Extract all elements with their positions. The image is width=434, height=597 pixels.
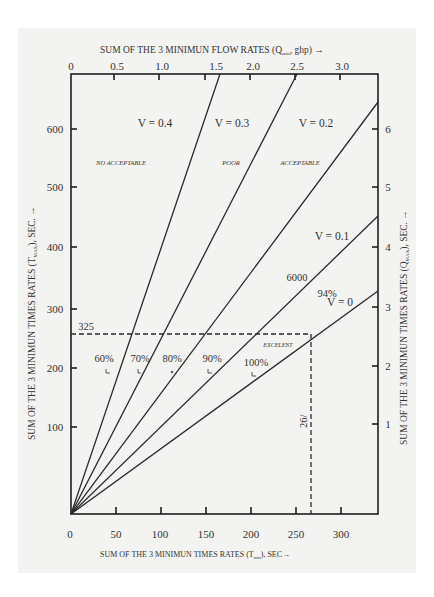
left-tick-label: 300	[47, 303, 64, 315]
label-v-0-3: V = 0.3	[215, 117, 250, 129]
region-excelent: EXCELENT	[262, 342, 293, 348]
label-v-0-4: V = 0.4	[138, 117, 173, 129]
right-axis: 1 2 3 4 5 6	[372, 123, 391, 430]
bottom-tick-label: 200	[243, 528, 260, 540]
line-v-0	[71, 291, 378, 514]
left-axis-title: SUM OF THE 3 MINIMUN TIMES RATES (TMAX),…	[27, 206, 38, 440]
chart: SUM OF THE 3 MINIMUN FLOW RATES (Qmin, g…	[0, 0, 434, 597]
arrow-icon	[208, 369, 212, 373]
bottom-tick-label: 0	[67, 528, 73, 540]
region-poor: POOR	[221, 159, 239, 166]
bottom-tick-label: 50	[111, 528, 123, 540]
left-axis: 100 200 300 400 500 600	[47, 123, 77, 433]
label-80-percent: 80%	[162, 353, 182, 364]
right-tick-label: 5	[385, 181, 391, 193]
region-acceptable: ACCEPTABLE	[279, 159, 319, 166]
left-tick-label: 400	[47, 241, 64, 253]
region-no-acceptable: NO ACCEPTABLE	[95, 159, 146, 166]
label-90-percent: 90%	[202, 353, 222, 364]
left-tick-label: 600	[47, 123, 64, 135]
top-tick-label: 2.0	[246, 60, 260, 72]
dot-icon	[171, 371, 173, 373]
top-tick-label: 0.5	[110, 60, 124, 72]
top-axis-title: SUM OF THE 3 MINIMUN FLOW RATES (Qmin, g…	[100, 45, 324, 56]
top-tick-label: 3.0	[335, 60, 349, 72]
bottom-axis-title: SUM OF THE 3 MINIMUN TIMES RATES (Tmin),…	[100, 550, 290, 560]
line-v-0-4	[71, 74, 220, 514]
label-100-percent: 100%	[244, 357, 269, 368]
label-v-0-1: V = 0.1	[315, 230, 350, 242]
top-tick-label: 0	[68, 60, 74, 72]
right-tick-label: 1	[385, 418, 391, 430]
top-tick-label: 1.5	[209, 60, 223, 72]
line-v-0-3	[71, 74, 297, 514]
right-tick-label: 3	[385, 301, 391, 313]
label-6000: 6000	[287, 272, 308, 283]
right-tick-label: 2	[385, 360, 391, 372]
right-tick-label: 6	[385, 123, 391, 135]
right-tick-label: 4	[385, 241, 391, 253]
label-v-0-2: V = 0.2	[299, 117, 334, 129]
top-tick-label: 1.0	[155, 60, 169, 72]
percent-arrow-icons	[106, 369, 256, 376]
arrow-icon	[138, 369, 141, 373]
label-94-percent: 94%	[317, 288, 337, 299]
bottom-tick-label: 250	[288, 528, 305, 540]
label-325: 325	[78, 321, 94, 332]
left-tick-label: 200	[47, 362, 64, 374]
top-tick-label: 2.5	[290, 60, 304, 72]
label-70-percent: 70%	[130, 353, 150, 364]
label-60-percent: 60%	[94, 353, 114, 364]
bottom-tick-label: 300	[333, 528, 350, 540]
label-26: 26/	[298, 415, 309, 429]
line-v-0-1	[71, 216, 378, 514]
top-axis: 0 0.5 1.0 1.5 2.0 2.5 3.0	[68, 60, 349, 80]
right-axis-title: SUM OF THE 3 MINIMUN TIMES RATES (QMAX),…	[399, 210, 410, 445]
left-tick-label: 500	[47, 181, 64, 193]
arrow-icon	[252, 372, 256, 376]
bottom-tick-label: 150	[198, 528, 215, 540]
bottom-tick-label: 100	[152, 528, 169, 540]
left-tick-label: 100	[47, 421, 64, 433]
bottom-axis: 0 50 100 150 200 250 300	[67, 507, 350, 540]
arrow-icon	[106, 369, 110, 373]
